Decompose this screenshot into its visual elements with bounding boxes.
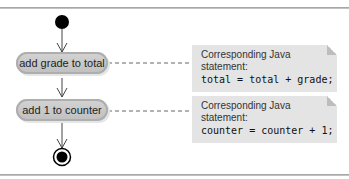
note-counter-statement: Corresponding Java statement: counter = … (192, 96, 337, 143)
note-code: total = total + grade; (201, 73, 329, 87)
action-add-grade-to-total: add grade to total (16, 52, 108, 74)
action-label: add grade to total (19, 57, 105, 69)
note-total-statement: Corresponding Java statement: total = to… (192, 45, 337, 92)
initial-node-icon (55, 15, 69, 29)
action-add-1-to-counter: add 1 to counter (16, 99, 108, 121)
note-caption: Corresponding Java statement: (201, 100, 329, 124)
final-node-icon (54, 149, 71, 166)
action-label: add 1 to counter (22, 104, 102, 116)
note-code: counter = counter + 1; (201, 124, 329, 138)
note-caption: Corresponding Java statement: (201, 49, 329, 73)
